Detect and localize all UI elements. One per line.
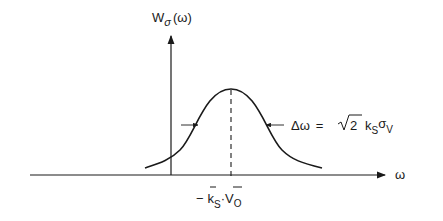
spectrum-diagram: Wσ(ω) ω Δω= 2 kSσV −kS·VO bbox=[0, 0, 443, 221]
svg-text:Δω=: Δω= bbox=[291, 118, 323, 133]
svg-text:2: 2 bbox=[350, 118, 357, 133]
y-axis-label: Wσ(ω) bbox=[152, 10, 192, 28]
width-label: Δω= 2 kSσV bbox=[291, 115, 393, 136]
x-axis-label: ω bbox=[395, 167, 405, 182]
peak-position-label: −kS·VO bbox=[196, 187, 242, 210]
svg-text:kSσV: kSσV bbox=[365, 116, 393, 136]
svg-text:−kS·VO: −kS·VO bbox=[196, 191, 242, 210]
